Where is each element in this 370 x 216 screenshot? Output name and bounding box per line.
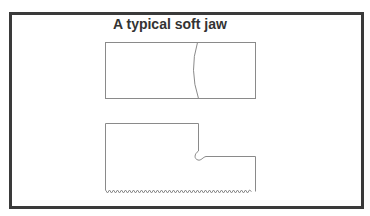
soft-jaw-side-view [106, 124, 256, 194]
soft-jaw-drawing [0, 0, 370, 216]
top-view-contour-curve [193, 43, 198, 99]
side-view-outline [106, 124, 256, 192]
serrated-bottom-edge [106, 190, 252, 193]
top-view-outline [106, 43, 256, 99]
soft-jaw-top-view [106, 43, 256, 99]
